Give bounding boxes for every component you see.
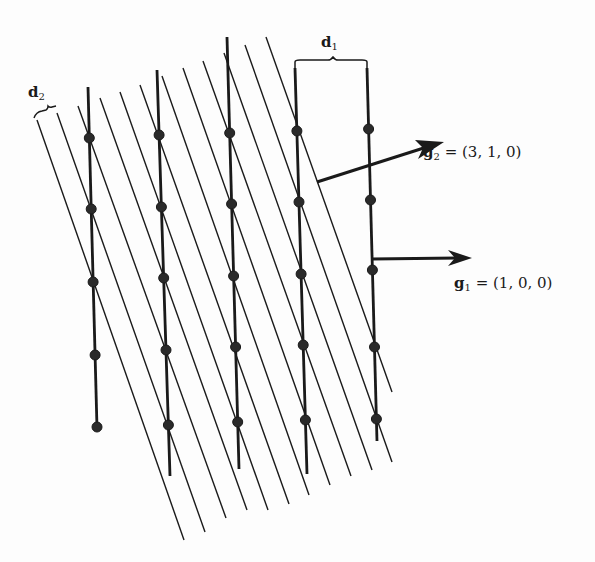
- lattice-point-dot: [154, 130, 164, 140]
- lattice-point-dot: [371, 414, 381, 424]
- g1-arrow-shaft: [372, 258, 458, 259]
- lattice-point-dot: [88, 277, 98, 287]
- lattice-points: [84, 124, 381, 432]
- d1-brace-icon: [295, 57, 367, 68]
- lattice-point-dot: [370, 342, 380, 352]
- lattice-point-dot: [364, 124, 374, 134]
- d1-sub: 1: [332, 41, 338, 52]
- lattice-point-dot: [156, 202, 166, 212]
- lattice-point-dot: [300, 415, 310, 425]
- lattice-point-dot: [233, 417, 243, 427]
- g1-label: g1 = (1, 0, 0): [454, 274, 552, 293]
- lattice-point-dot: [231, 342, 241, 352]
- g1-components: = (1, 0, 0): [471, 274, 553, 292]
- lattice-point-dot: [84, 133, 94, 143]
- diagonal-plane-line: [120, 92, 268, 510]
- diagonal-plane-line: [140, 85, 289, 504]
- diagonal-plane-line: [245, 45, 392, 462]
- lattice-point-dot: [159, 273, 169, 283]
- lattice-point-dot: [292, 126, 302, 136]
- diagonal-plane-line: [57, 113, 205, 532]
- lattice-point-dot: [296, 269, 306, 279]
- d2-main: d: [28, 83, 39, 101]
- g2-main: g: [423, 143, 434, 161]
- diagonal-plane-line: [162, 76, 309, 495]
- vertical-plane-line: [227, 37, 239, 469]
- diagonal-planes-310: [37, 37, 392, 540]
- lattice-point-dot: [294, 197, 304, 207]
- diagonal-plane-line: [78, 106, 226, 518]
- lattice-point-dot: [86, 204, 96, 214]
- g1-main: g: [454, 274, 465, 292]
- g2-components: = (3, 1, 0): [440, 143, 522, 161]
- diagonal-plane-line: [224, 53, 372, 470]
- d2-label: d2: [28, 83, 45, 102]
- d1-main: d: [321, 33, 332, 51]
- g2-arrow-shaft: [317, 146, 430, 182]
- diagonal-plane-line: [203, 61, 351, 476]
- lattice-point-dot: [227, 199, 237, 209]
- lattice-plane-diagram: d1 d2 g2 = (3, 1, 0) g1 = (1, 0, 0): [0, 0, 595, 562]
- diagonal-plane-line: [100, 98, 247, 510]
- d2-sub: 2: [39, 91, 45, 102]
- lattice-point-dot: [161, 345, 171, 355]
- lattice-point-dot: [90, 350, 100, 360]
- lattice-point-dot: [366, 195, 376, 205]
- lattice-point-dot: [92, 422, 102, 432]
- lattice-point-dot: [163, 420, 173, 430]
- g2-label: g2 = (3, 1, 0): [423, 143, 521, 162]
- lattice-point-dot: [367, 265, 377, 275]
- lattice-point-dot: [229, 271, 239, 281]
- lattice-point-dot: [298, 340, 308, 350]
- d1-label: d1: [321, 33, 338, 52]
- d2-brace-icon: [34, 106, 56, 118]
- lattice-point-dot: [225, 128, 235, 138]
